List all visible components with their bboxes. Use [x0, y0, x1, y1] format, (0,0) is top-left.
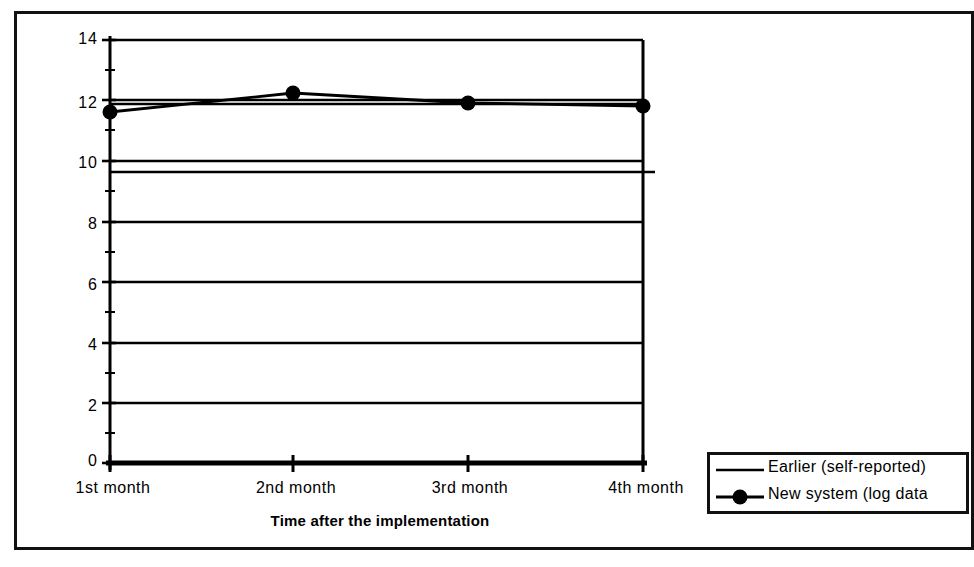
legend-line-sample-icon: [714, 455, 766, 483]
chart-legend: Earlier (self-reported) New system (log …: [707, 452, 969, 514]
legend-label-earlier: Earlier (self-reported): [768, 458, 926, 476]
data-point-1st-month: [103, 105, 118, 120]
data-point-2nd-month: [286, 86, 301, 101]
legend-label-new-system: New system (log data: [768, 485, 928, 503]
series-new-system-log-data-line: [110, 93, 643, 112]
data-point-4th-month: [636, 99, 651, 114]
series-new-system-markers: [103, 86, 651, 120]
gridlines: [110, 40, 643, 403]
legend-entry-new-system: New system (log data: [710, 482, 966, 513]
data-point-3rd-month: [461, 96, 476, 111]
legend-line-dot-sample-icon: [714, 482, 766, 510]
